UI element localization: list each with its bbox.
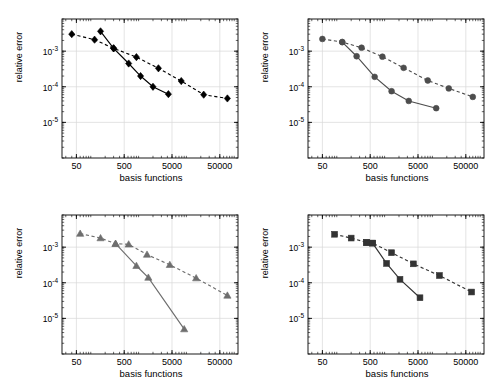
data-point-triangle — [193, 275, 200, 281]
data-point-circle — [354, 53, 360, 59]
x-axis-label: basis functions — [308, 172, 486, 183]
y-tick-label: 10-4 — [22, 81, 58, 93]
data-point-circle — [446, 86, 452, 92]
data-point-square — [389, 250, 395, 256]
x-tick-label: 50000 — [453, 357, 478, 367]
x-tick-label: 50 — [317, 357, 327, 367]
data-point-diamond — [133, 54, 139, 61]
x-tick-label: 5000 — [408, 357, 428, 367]
x-tick-label: 5000 — [408, 161, 428, 171]
subplot-bottom-right: relative error basis functions 505005000… — [246, 196, 491, 391]
x-tick-label: 50 — [71, 357, 81, 367]
data-point-square — [364, 240, 370, 246]
y-tick-label: 10-4 — [268, 277, 304, 289]
x-tick-label: 50000 — [207, 161, 232, 171]
data-point-diamond — [155, 65, 161, 72]
data-point-circle — [406, 98, 412, 104]
data-point-diamond — [201, 91, 207, 98]
x-tick-label: 50 — [317, 161, 327, 171]
data-point-triangle — [143, 251, 150, 257]
data-point-diamond — [178, 77, 184, 84]
data-point-square — [417, 295, 423, 301]
data-point-circle — [380, 54, 386, 60]
data-point-diamond — [91, 36, 97, 43]
data-point-triangle — [112, 240, 119, 246]
x-tick-label: 50 — [71, 161, 81, 171]
data-point-square — [397, 276, 403, 282]
y-tick-label: 10-5 — [22, 312, 58, 324]
series-line-solid — [342, 42, 436, 108]
x-tick-label: 50000 — [453, 161, 478, 171]
y-tick-label: 10-4 — [22, 277, 58, 289]
series-line-dashed — [72, 34, 228, 98]
subplot-bottom-left: relative error basis functions 505005000… — [0, 196, 245, 391]
data-point-triangle — [77, 230, 84, 236]
data-point-square — [348, 235, 354, 241]
y-tick-label: 10-3 — [268, 45, 304, 57]
x-tick-label: 500 — [117, 357, 132, 367]
figure-canvas: relative error basis functions 505005000… — [0, 0, 491, 391]
subplot-top-right: relative error basis functions 505005000… — [246, 0, 491, 195]
data-point-square — [436, 273, 442, 279]
x-tick-label: 5000 — [162, 161, 182, 171]
series-line-solid — [101, 31, 169, 94]
data-point-diamond — [69, 31, 75, 38]
x-axis-label: basis functions — [308, 368, 486, 379]
y-tick-label: 10-5 — [22, 116, 58, 128]
y-tick-label: 10-5 — [268, 116, 304, 128]
series-line-dashed — [335, 234, 472, 292]
data-point-diamond — [165, 91, 171, 98]
data-point-square — [370, 240, 376, 246]
y-tick-label: 10-3 — [268, 241, 304, 253]
subplot-top-left: relative error basis functions 505005000… — [0, 0, 245, 195]
y-tick-label: 10-3 — [22, 45, 58, 57]
x-tick-label: 500 — [117, 161, 132, 171]
x-tick-label: 500 — [363, 161, 378, 171]
data-point-circle — [372, 74, 378, 80]
x-tick-label: 5000 — [162, 357, 182, 367]
x-axis-label: basis functions — [62, 172, 240, 183]
data-point-circle — [401, 65, 407, 71]
y-tick-label: 10-4 — [268, 81, 304, 93]
data-point-triangle — [224, 292, 231, 298]
data-point-circle — [389, 88, 395, 94]
data-point-circle — [425, 78, 431, 84]
y-tick-label: 10-5 — [268, 312, 304, 324]
data-point-square — [469, 289, 475, 295]
data-point-diamond — [224, 95, 230, 102]
x-axis-label: basis functions — [62, 368, 240, 379]
data-point-square — [410, 261, 416, 267]
y-tick-label: 10-3 — [22, 241, 58, 253]
data-point-circle — [359, 45, 365, 51]
x-tick-label: 50000 — [207, 357, 232, 367]
data-point-circle — [319, 36, 325, 42]
data-point-square — [332, 231, 338, 237]
data-point-circle — [433, 105, 439, 111]
data-point-square — [384, 260, 390, 266]
x-tick-label: 500 — [363, 357, 378, 367]
data-point-circle — [470, 94, 476, 100]
data-point-circle — [339, 39, 345, 45]
